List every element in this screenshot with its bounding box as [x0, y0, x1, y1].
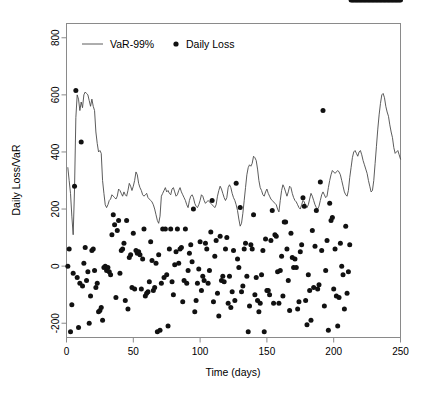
daily-loss-point: [186, 268, 191, 273]
daily-loss-point: [166, 324, 171, 329]
daily-loss-point: [239, 289, 244, 294]
daily-loss-point: [183, 227, 188, 232]
daily-loss-point: [231, 248, 236, 253]
daily-loss-point: [179, 245, 184, 250]
daily-loss-point: [337, 295, 342, 300]
daily-loss-point: [303, 298, 308, 303]
daily-loss-point: [278, 268, 283, 273]
daily-loss-point: [223, 247, 228, 252]
daily-loss-point: [171, 292, 176, 297]
daily-loss-point: [302, 204, 307, 209]
daily-loss-point: [343, 224, 348, 229]
daily-loss-point: [258, 301, 263, 306]
daily-loss-point: [199, 288, 204, 293]
x-tick-label: 200: [325, 346, 342, 357]
daily-loss-point: [93, 285, 98, 290]
daily-loss-point: [335, 324, 340, 329]
chart-figure: -2000200400600800 050100150200250 VaR-99…: [0, 0, 428, 395]
daily-loss-point: [84, 278, 89, 283]
daily-loss-point: [315, 286, 320, 291]
daily-loss-point: [243, 241, 248, 246]
daily-loss-point: [167, 247, 172, 252]
daily-loss-point: [76, 325, 81, 330]
daily-loss-point: [140, 257, 145, 262]
y-tick-label: -200: [50, 313, 61, 333]
daily-loss-point: [196, 266, 201, 271]
daily-loss-point: [238, 205, 243, 210]
daily-loss-point: [202, 278, 207, 283]
daily-loss-point: [319, 248, 324, 253]
daily-loss-point: [280, 294, 285, 299]
daily-loss-point: [124, 218, 129, 223]
daily-loss-point: [158, 328, 163, 333]
daily-loss-point: [83, 245, 88, 250]
x-axis-ticks: 050100150200250: [64, 338, 410, 357]
y-axis-title: Daily Loss/VaR: [10, 144, 22, 215]
daily-loss-point: [192, 309, 197, 314]
y-tick-label: 600: [50, 86, 61, 103]
daily-loss-point: [246, 329, 251, 334]
daily-loss-point: [307, 288, 312, 293]
daily-loss-point: [323, 268, 328, 273]
daily-loss-point: [346, 269, 351, 274]
daily-loss-points: [65, 0, 403, 334]
var-backtest-chart: -2000200400600800 050100150200250 VaR-99…: [0, 0, 428, 395]
daily-loss-point: [99, 305, 104, 310]
daily-loss-point: [227, 274, 232, 279]
daily-loss-point: [65, 264, 70, 269]
daily-loss-point: [120, 247, 125, 252]
daily-loss-point: [105, 265, 110, 270]
daily-loss-point: [187, 251, 192, 256]
daily-loss-point: [113, 295, 118, 300]
daily-loss-point: [262, 329, 267, 334]
daily-loss-point: [318, 179, 323, 184]
daily-loss-point: [191, 207, 196, 212]
x-tick-label: 250: [392, 346, 409, 357]
daily-loss-point: [92, 268, 97, 273]
daily-loss-point: [330, 215, 335, 220]
daily-loss-point: [226, 301, 231, 306]
chart-legend: VaR-99% Daily Loss: [82, 38, 234, 50]
daily-loss-point: [109, 232, 114, 237]
daily-loss-point: [317, 282, 322, 287]
daily-loss-point: [132, 286, 137, 291]
daily-loss-point: [188, 242, 193, 247]
daily-loss-point: [150, 258, 155, 263]
legend-label-daily-loss: Daily Loss: [186, 38, 234, 50]
daily-loss-point: [220, 274, 225, 279]
daily-loss-point: [212, 254, 217, 259]
daily-loss-point: [214, 238, 219, 243]
legend-label-var: VaR-99%: [110, 38, 154, 50]
daily-loss-point: [123, 298, 128, 303]
y-tick-label: 0: [50, 263, 61, 269]
daily-loss-point: [284, 247, 289, 252]
daily-loss-point: [75, 275, 80, 280]
legend-dot-sample: [173, 41, 178, 46]
daily-loss-point: [148, 239, 153, 244]
daily-loss-point: [304, 322, 309, 327]
daily-loss-point: [252, 292, 257, 297]
daily-loss-point: [131, 231, 136, 236]
daily-loss-point: [141, 227, 146, 232]
daily-loss-point: [256, 309, 261, 314]
daily-loss-point: [276, 301, 281, 306]
daily-loss-point: [322, 304, 327, 309]
daily-loss-point: [218, 234, 223, 239]
daily-loss-point: [294, 265, 299, 270]
y-tick-label: 800: [50, 29, 61, 46]
daily-loss-point: [298, 249, 303, 254]
daily-loss-point: [308, 318, 313, 323]
daily-loss-point: [236, 265, 241, 270]
daily-loss-point: [224, 235, 229, 240]
daily-loss-point: [313, 244, 318, 249]
daily-loss-point: [156, 252, 161, 257]
daily-loss-point: [203, 241, 208, 246]
daily-loss-point: [176, 261, 181, 266]
daily-loss-point: [115, 228, 120, 233]
daily-loss-point: [260, 248, 265, 253]
daily-loss-point: [71, 271, 76, 276]
daily-loss-point: [208, 229, 213, 234]
daily-loss-point: [117, 271, 122, 276]
daily-loss-point: [163, 227, 168, 232]
daily-loss-point: [300, 195, 305, 200]
